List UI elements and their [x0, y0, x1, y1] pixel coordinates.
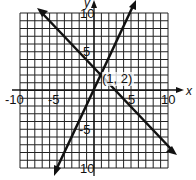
tick-y-10: 10: [80, 6, 94, 21]
x-axis-label: x: [185, 84, 193, 98]
tick-x-neg5: -5: [48, 92, 60, 107]
tick-y-neg10: 10: [80, 161, 94, 176]
intersection-label: (1, 2): [102, 71, 132, 86]
tick-x-5: 5: [128, 92, 135, 107]
tick-y-neg5: -5: [79, 122, 91, 137]
coordinate-plane: (1, 2) y x -10 -5 5 10 10 5 -5 10: [0, 0, 196, 180]
tick-y-5: 5: [83, 44, 90, 59]
x-axis: [12, 87, 184, 93]
tick-x-neg10: -10: [5, 92, 24, 107]
tick-x-10: 10: [161, 92, 175, 107]
